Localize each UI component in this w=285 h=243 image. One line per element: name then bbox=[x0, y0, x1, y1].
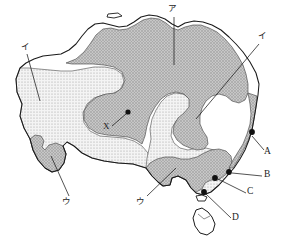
city-dot-D bbox=[201, 189, 207, 195]
zone-label-u-left: ウ bbox=[62, 197, 71, 206]
point-label-B: B bbox=[264, 170, 270, 179]
leader-line-C bbox=[218, 179, 246, 193]
point-dot-x bbox=[125, 109, 130, 114]
melville-island bbox=[107, 13, 122, 18]
kangaroo-island bbox=[196, 195, 207, 201]
australia-map-svg bbox=[0, 0, 285, 243]
point-label-D: D bbox=[232, 213, 239, 222]
point-label-x: X bbox=[103, 122, 110, 131]
city-dot-C bbox=[212, 175, 218, 181]
leader-line-B bbox=[232, 173, 262, 176]
zone-label-i-left: イ bbox=[21, 42, 30, 51]
city-dot-B bbox=[226, 169, 232, 175]
point-label-A: A bbox=[264, 147, 271, 156]
zone-label-u-mid: ウ bbox=[136, 197, 145, 206]
city-dot-A bbox=[249, 129, 255, 135]
leader-line-A bbox=[252, 136, 264, 150]
zone-label-i-right: イ bbox=[258, 31, 267, 40]
map-figure: ア イ イ ウ ウ X A B C D bbox=[0, 0, 285, 243]
point-label-C: C bbox=[247, 187, 253, 196]
tasmania-island bbox=[193, 208, 215, 235]
zone-label-a: ア bbox=[168, 4, 177, 13]
